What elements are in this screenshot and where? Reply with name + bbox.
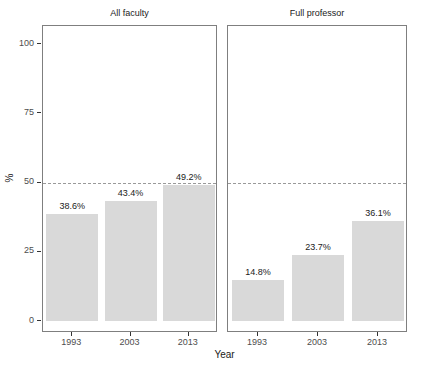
bar-value-label: 43.4% <box>101 187 161 199</box>
bar-value-label: 49.2% <box>159 171 219 183</box>
y-axis-tick-label: 0 <box>8 315 34 326</box>
reference-line-50pct <box>43 183 216 184</box>
x-axis-tick-label: 1993 <box>237 337 277 348</box>
x-axis-tick <box>377 332 378 336</box>
bar-2003 <box>292 255 344 321</box>
x-axis-tick <box>317 332 318 336</box>
y-axis-tick-label: 25 <box>8 245 34 256</box>
x-axis-title: Year <box>42 349 407 360</box>
panel-full-professor: 14.8%23.7%36.1% <box>227 25 407 332</box>
y-axis-tick <box>37 43 41 44</box>
x-axis-tick <box>257 332 258 336</box>
bar-value-label: 38.6% <box>42 200 102 212</box>
bar-1993 <box>232 280 284 321</box>
bar-2013 <box>352 221 404 321</box>
x-axis-tick-label: 2013 <box>168 337 208 348</box>
facet-title-all-faculty: All faculty <box>42 7 217 19</box>
bar-2003 <box>105 201 157 321</box>
bar-1993 <box>46 214 98 321</box>
x-axis-tick-label: 2013 <box>357 337 397 348</box>
y-axis-tick <box>37 320 41 321</box>
y-axis-tick-label: 75 <box>8 107 34 118</box>
y-axis-tick <box>37 182 41 183</box>
bar-value-label: 14.8% <box>228 266 288 278</box>
panel-all-faculty: 38.6%43.4%49.2% <box>42 25 217 332</box>
x-axis-tick-label: 2003 <box>110 337 150 348</box>
y-axis-title: % <box>4 172 16 184</box>
bar-value-label: 23.7% <box>288 241 348 253</box>
faceted-bar-chart: All faculty Full professor 38.6%43.4%49.… <box>0 0 422 372</box>
x-axis-tick <box>188 332 189 336</box>
y-axis-tick <box>37 251 41 252</box>
bar-2013 <box>163 185 215 321</box>
reference-line-50pct <box>228 183 406 184</box>
y-axis-tick <box>37 112 41 113</box>
facet-title-full-professor: Full professor <box>227 7 407 19</box>
x-axis-tick-label: 1993 <box>51 337 91 348</box>
x-axis-tick <box>130 332 131 336</box>
x-axis-tick <box>71 332 72 336</box>
bar-value-label: 36.1% <box>348 207 408 219</box>
x-axis-tick-label: 2003 <box>297 337 337 348</box>
y-axis-tick-label: 100 <box>8 38 34 49</box>
